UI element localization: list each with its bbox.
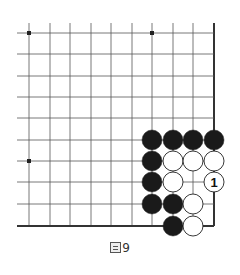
figure-char-icon [110, 242, 121, 253]
white-stone [183, 151, 203, 171]
star-point-icon [27, 31, 31, 35]
black-stone [142, 172, 162, 192]
white-stone [183, 194, 203, 214]
star-point-icon [150, 31, 154, 35]
black-stone [142, 194, 162, 214]
black-stone [163, 216, 183, 236]
move-number-label: 1 [210, 175, 217, 190]
white-stone [163, 151, 183, 171]
black-stone [163, 194, 183, 214]
figure-caption: 9 [0, 241, 240, 255]
white-stone [163, 172, 183, 192]
black-stone [142, 130, 162, 150]
black-stone [163, 130, 183, 150]
board-grid [17, 23, 214, 226]
white-stone: 1 [204, 172, 224, 192]
black-stone [204, 130, 224, 150]
figure-number: 9 [122, 241, 130, 255]
white-stone [204, 151, 224, 171]
black-stone [142, 151, 162, 171]
stones: 1 [142, 130, 224, 236]
star-point-icon [27, 159, 31, 163]
white-stone [183, 216, 203, 236]
black-stone [183, 130, 203, 150]
go-board: 1 [0, 0, 240, 240]
